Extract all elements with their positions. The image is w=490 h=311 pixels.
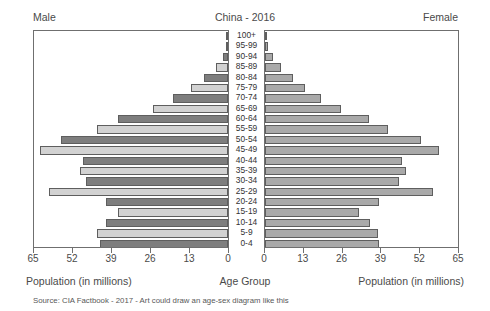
- bar-row: [265, 31, 458, 41]
- male-bar-30-34: [86, 177, 228, 185]
- male-bar-85-89: [216, 63, 228, 71]
- male-bar-20-24: [106, 198, 228, 206]
- bar-row: [34, 62, 228, 72]
- axis-tick-label-13: 13: [183, 253, 194, 264]
- age-group-label-90-94: 90-94: [229, 51, 264, 61]
- axis-tick-label-65: 65: [452, 253, 463, 264]
- age-group-label-30-34: 30-34: [229, 175, 264, 185]
- bar-row: [265, 166, 458, 176]
- male-bar-65-69: [153, 105, 228, 113]
- male-bar-55-59: [97, 125, 228, 133]
- bar-row: [34, 124, 228, 134]
- bar-row: [265, 135, 458, 145]
- bar-row: [34, 207, 228, 217]
- female-bar-30-34: [265, 177, 399, 185]
- bar-row: [265, 62, 458, 72]
- male-bar-50-54: [61, 136, 228, 144]
- male-bar-80-84: [204, 74, 228, 82]
- axis-tick-label-52: 52: [66, 253, 77, 264]
- bar-row: [265, 207, 458, 217]
- bar-row: [34, 73, 228, 83]
- bar-row: [265, 197, 458, 207]
- bar-row: [34, 218, 228, 228]
- bar-row: [265, 52, 458, 62]
- female-bar-95-99: [265, 42, 268, 50]
- male-bar-5-9: [97, 229, 228, 237]
- axis-tick-label-39: 39: [105, 253, 116, 264]
- bar-row: [34, 197, 228, 207]
- age-group-label-60-64: 60-64: [229, 113, 264, 123]
- male-bar-40-44: [83, 157, 228, 165]
- female-bar-15-19: [265, 208, 359, 216]
- bar-row: [265, 93, 458, 103]
- age-group-label-15-19: 15-19: [229, 206, 264, 216]
- bar-row: [265, 114, 458, 124]
- bar-row: [34, 239, 228, 248]
- bar-row: [34, 41, 228, 51]
- female-bar-60-64: [265, 115, 369, 123]
- source-note: Source: CIA Factbook - 2017 - Art could …: [33, 296, 289, 305]
- bar-row: [265, 73, 458, 83]
- male-bar-15-19: [118, 208, 228, 216]
- male-bar-0-4: [100, 240, 228, 248]
- bar-row: [34, 31, 228, 41]
- bar-row: [265, 228, 458, 238]
- age-group-label-40-44: 40-44: [229, 155, 264, 165]
- male-bar-35-39: [80, 167, 228, 175]
- bar-row: [34, 187, 228, 197]
- population-pyramid-chart: Male China - 2016 Female 100+95-9990-948…: [0, 0, 490, 311]
- age-group-label-65-69: 65-69: [229, 103, 264, 113]
- female-bar-0-4: [265, 240, 379, 248]
- age-group-label-25-29: 25-29: [229, 186, 264, 196]
- bar-row: [34, 156, 228, 166]
- female-bar-85-89: [265, 63, 281, 71]
- bar-row: [34, 93, 228, 103]
- axis-tick-label-0: 0: [261, 253, 267, 264]
- age-group-label-5-9: 5-9: [229, 227, 264, 237]
- male-bar-75-79: [191, 84, 228, 92]
- female-bar-80-84: [265, 74, 293, 82]
- chart-title: China - 2016: [0, 11, 490, 23]
- male-bar-45-49: [40, 146, 228, 154]
- female-bar-20-24: [265, 198, 379, 206]
- female-bar-rows: [265, 31, 458, 247]
- female-bar-45-49: [265, 146, 439, 154]
- bar-row: [265, 176, 458, 186]
- age-group-label-80-84: 80-84: [229, 72, 264, 82]
- male-bar-10-14: [106, 219, 228, 227]
- axis-tick-label-52: 52: [414, 253, 425, 264]
- bar-row: [34, 114, 228, 124]
- axis-tick-label-13: 13: [297, 253, 308, 264]
- age-group-label-45-49: 45-49: [229, 144, 264, 154]
- bar-row: [34, 52, 228, 62]
- axis-tick-label-26: 26: [336, 253, 347, 264]
- bar-row: [265, 124, 458, 134]
- female-plot-panel: [264, 30, 459, 248]
- bar-row: [34, 145, 228, 155]
- bar-row: [265, 41, 458, 51]
- female-bar-75-79: [265, 84, 305, 92]
- age-group-label-100+: 100+: [229, 30, 264, 40]
- axis-tick-label-39: 39: [375, 253, 386, 264]
- age-group-label-70-74: 70-74: [229, 92, 264, 102]
- male-bar-100+: [226, 32, 228, 40]
- female-bar-100+: [265, 32, 267, 40]
- bar-row: [34, 166, 228, 176]
- age-group-label-75-79: 75-79: [229, 82, 264, 92]
- age-group-label-50-54: 50-54: [229, 134, 264, 144]
- age-group-label-55-59: 55-59: [229, 123, 264, 133]
- bar-row: [34, 83, 228, 93]
- female-bar-35-39: [265, 167, 406, 175]
- bar-row: [265, 239, 458, 248]
- male-x-axis: 65523926130: [33, 248, 229, 262]
- bar-row: [265, 187, 458, 197]
- male-bar-rows: [34, 31, 228, 247]
- female-bar-5-9: [265, 229, 378, 237]
- female-bar-65-69: [265, 105, 341, 113]
- female-bar-90-94: [265, 53, 273, 61]
- female-bar-40-44: [265, 157, 402, 165]
- age-group-label-85-89: 85-89: [229, 61, 264, 71]
- male-bar-70-74: [173, 94, 228, 102]
- male-bar-60-64: [118, 115, 228, 123]
- male-bar-95-99: [226, 42, 228, 50]
